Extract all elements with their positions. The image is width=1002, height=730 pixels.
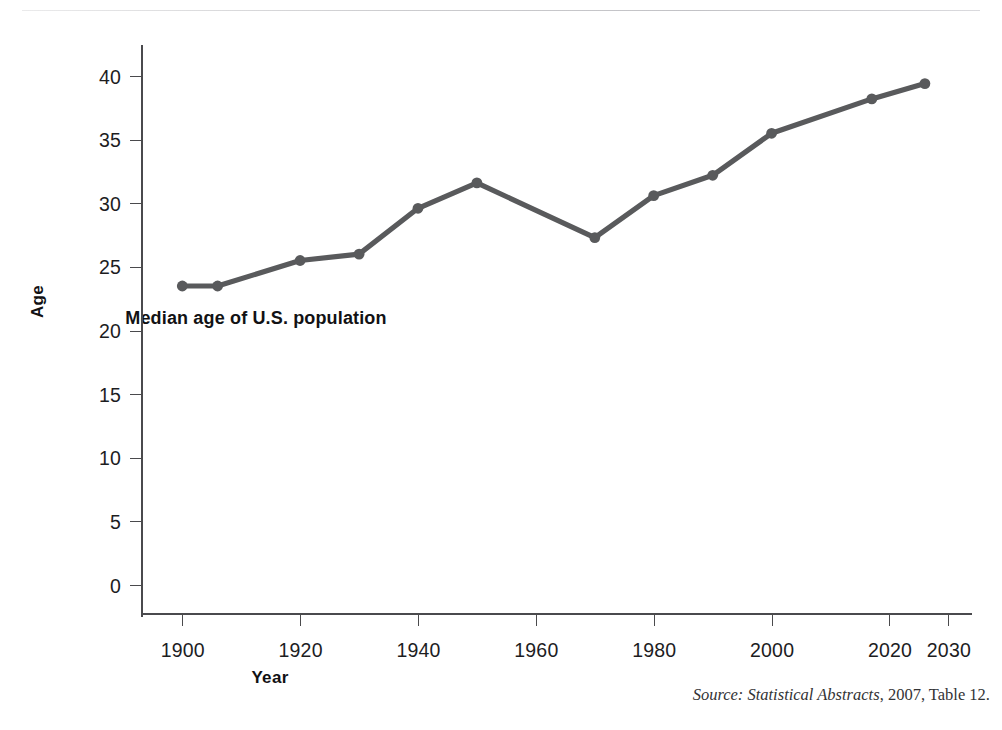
data-point-marker: [177, 281, 188, 292]
y-axis-tick-label: 10: [99, 447, 121, 470]
y-axis-tick-label: 20: [99, 320, 121, 343]
plot-area: 0510152025303540 19001920194019601980200…: [141, 45, 971, 615]
data-point-marker: [866, 94, 877, 105]
source-note-prefix: Source:: [693, 685, 744, 704]
data-point-marker: [648, 190, 659, 201]
y-axis-tick-label: 25: [99, 256, 121, 279]
y-axis-tick: 15: [130, 394, 141, 395]
x-axis-tick-label: 2000: [750, 639, 794, 662]
x-axis-tick-label: 2030: [927, 639, 971, 662]
x-axis-tick-label: 1940: [396, 639, 440, 662]
source-note: Source: Statistical Abstracts, 2007, Tab…: [693, 685, 990, 705]
y-axis-tick: 20: [130, 331, 141, 332]
y-axis-tick-label: 15: [99, 383, 121, 406]
y-axis-tick: 10: [130, 458, 141, 459]
y-axis-tick-label: 0: [110, 574, 121, 597]
y-axis-tick-label: 40: [99, 65, 121, 88]
series-polyline: [182, 84, 925, 286]
y-axis-tick: 0: [130, 585, 141, 586]
y-axis-tick-label: 30: [99, 192, 121, 215]
x-axis-tick-label: 1960: [514, 639, 558, 662]
y-axis-tick: 5: [130, 521, 141, 522]
header-divider-rule: [22, 10, 980, 11]
x-axis-tick-label: 1900: [161, 639, 205, 662]
data-series-line: [141, 45, 972, 617]
x-axis-tick-label: 1980: [632, 639, 676, 662]
data-point-marker: [920, 78, 931, 89]
data-point-marker: [707, 170, 718, 181]
figure-median-age-chart: Age Year Median age of U.S. population 0…: [0, 0, 1002, 730]
data-point-marker: [589, 232, 600, 243]
data-point-marker: [295, 255, 306, 266]
x-axis-tick-label: 2020: [868, 639, 912, 662]
data-point-marker: [212, 281, 223, 292]
x-axis-tick-label: 1920: [279, 639, 323, 662]
data-point-marker: [472, 178, 483, 189]
data-point-marker: [766, 128, 777, 139]
y-axis-tick-label: 5: [110, 510, 121, 533]
data-point-marker: [413, 203, 424, 214]
data-point-marker: [354, 249, 365, 260]
y-axis-tick: 40: [130, 76, 141, 77]
y-axis-tick: 30: [130, 203, 141, 204]
source-note-suffix: , 2007, Table 12.: [880, 685, 990, 704]
y-axis-tick-label: 35: [99, 129, 121, 152]
y-axis-tick: 35: [130, 140, 141, 141]
source-note-title: Statistical Abstracts: [747, 685, 879, 704]
y-axis-tick: 25: [130, 267, 141, 268]
